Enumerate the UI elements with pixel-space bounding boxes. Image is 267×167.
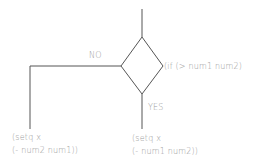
no-branch-label: NO — [89, 49, 102, 62]
no-action-line2: (- num2 num1)) — [12, 144, 78, 157]
decision-condition-label: (if (> num1 num2) — [164, 60, 242, 73]
decision-diamond — [121, 37, 163, 94]
yes-action-line1: (setq x — [132, 132, 161, 145]
yes-action-line2: (- num1 num2)) — [132, 145, 198, 158]
flowchart-canvas: (if (> num1 num2) NO YES (setq x (- num2… — [0, 0, 267, 167]
yes-branch-label: YES — [148, 101, 164, 114]
no-action-line1: (setq x — [12, 131, 41, 144]
